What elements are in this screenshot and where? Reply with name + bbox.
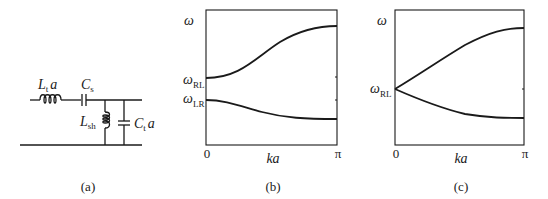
plot-b — [206, 10, 337, 145]
caption-b: (b) — [265, 179, 280, 194]
plot-b-level-rl: ωRL — [183, 72, 204, 90]
shunt-inductor-icon — [103, 112, 110, 128]
caption-a: (a) — [81, 179, 95, 194]
plot-c-lower-branch — [395, 89, 524, 118]
plot-b-lower-branch — [206, 100, 337, 119]
caption-c: (c) — [454, 179, 468, 194]
plot-c-level-rl: ωRL — [370, 81, 391, 99]
plot-b-x-label: ka — [266, 151, 279, 166]
plot-b-x-tick-pi: π — [335, 146, 342, 161]
plot-b-y-label: ω — [184, 13, 194, 28]
plot-c-upper-branch — [395, 28, 524, 89]
plot-c — [395, 10, 524, 145]
label-shunt-capacitor: Cta — [134, 116, 155, 133]
plot-b-x-tick-0: 0 — [204, 146, 211, 161]
plot-b-level-lr: ωLR — [183, 91, 204, 109]
plot-b-frame — [206, 10, 337, 145]
plot-c-x-label: ka — [454, 151, 467, 166]
label-series-inductor: Lta — [37, 77, 57, 94]
plot-b-upper-branch — [206, 26, 337, 78]
plot-c-x-tick-pi: π — [522, 146, 529, 161]
label-series-capacitor: Cs — [81, 77, 94, 94]
series-capacitor-icon — [82, 94, 86, 106]
plot-c-y-label: ω — [377, 13, 387, 28]
shunt-capacitor-icon — [118, 121, 130, 125]
label-shunt-inductor: Lsh — [79, 114, 96, 131]
series-inductor-icon — [40, 95, 61, 103]
plot-c-x-tick-0: 0 — [393, 146, 400, 161]
